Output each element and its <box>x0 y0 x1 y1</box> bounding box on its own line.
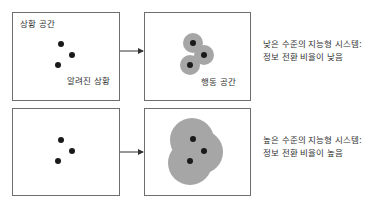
known-situation-dots-top <box>55 41 75 68</box>
high-intelligence-detail: 정보 전환 비율이 높음 <box>263 147 362 160</box>
high-intelligence-description: 높은 수준의 지능형 시스템: 정보 전환 비율이 높음 <box>263 134 362 160</box>
large-coverage-areas <box>168 118 223 185</box>
high-intelligence-title: 높은 수준의 지능형 시스템: <box>263 134 362 147</box>
known-situation-dots-bottom <box>55 137 75 164</box>
low-intelligence-title: 낮은 수준의 지능형 시스템: <box>263 38 362 51</box>
diagram-graphics <box>0 0 366 205</box>
small-coverage-areas <box>180 33 214 75</box>
low-intelligence-detail: 정보 전환 비율이 낮음 <box>263 51 362 64</box>
low-intelligence-description: 낮은 수준의 지능형 시스템: 정보 전환 비율이 낮음 <box>263 38 362 64</box>
